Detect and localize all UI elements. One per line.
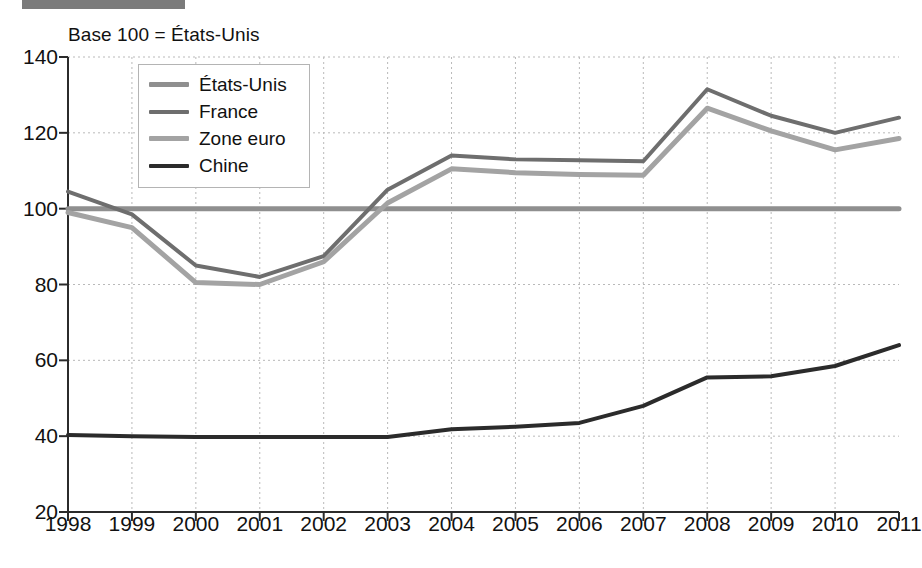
legend-swatch-icon	[149, 82, 189, 87]
legend-swatch-icon	[149, 136, 189, 141]
series-line-chine	[68, 345, 899, 437]
legend-item[interactable]: États-Unis	[149, 71, 301, 98]
legend-item[interactable]: Zone euro	[149, 125, 301, 152]
chart-legend: États-UnisFranceZone euroChine	[138, 64, 310, 188]
legend-item[interactable]: France	[149, 98, 301, 125]
legend-label: Chine	[199, 155, 249, 177]
legend-swatch-icon	[149, 110, 189, 114]
legend-label: États-Unis	[199, 74, 287, 96]
legend-label: France	[199, 101, 258, 123]
legend-label: Zone euro	[199, 128, 286, 150]
legend-item[interactable]: Chine	[149, 152, 301, 179]
legend-swatch-icon	[149, 164, 189, 168]
